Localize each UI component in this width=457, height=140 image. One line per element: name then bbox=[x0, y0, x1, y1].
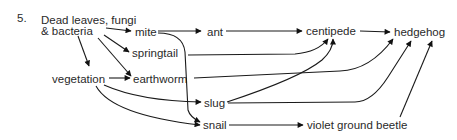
arrow-vegetation-snail bbox=[96, 86, 200, 125]
arrow-centipede-hedgehog bbox=[360, 31, 390, 32]
arrow-deadleaves-mite bbox=[106, 28, 131, 31]
food-web-arrows bbox=[0, 0, 457, 140]
arrow-earthworm-hedgehog bbox=[194, 39, 393, 78]
arrow-deadleaves-vegetation bbox=[78, 36, 89, 66]
arrow-deadleaves-earthworm bbox=[98, 38, 131, 76]
arrow-beetle-hedgehog bbox=[400, 41, 432, 117]
arrow-mite-snail bbox=[158, 33, 200, 122]
arrow-springtail-centipede bbox=[188, 39, 328, 55]
